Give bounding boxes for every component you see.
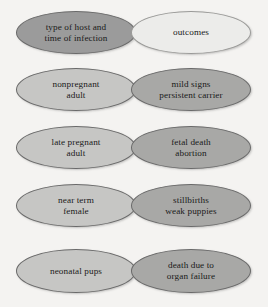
node-late-pregnant-adult: late pregnant adult <box>16 126 136 169</box>
node-outcomes-header: outcomes <box>131 11 251 54</box>
node-nonpregnant-adult: nonpregnant adult <box>16 68 136 111</box>
node-label: outcomes <box>164 27 218 38</box>
node-death-due-to-organ-failure: death due to organ failure <box>131 249 251 293</box>
node-neonatal-pups: neonatal pups <box>16 249 136 293</box>
diagram-canvas: type of host and time of infectionoutcom… <box>0 0 268 307</box>
node-label: nonpregnant adult <box>43 79 108 101</box>
node-mild-signs-persistent-carrier: mild signs persistent carrier <box>131 68 251 111</box>
node-fetal-death-abortion: fetal death abortion <box>131 126 251 169</box>
node-label: stillbirths weak puppies <box>156 195 225 217</box>
node-label: mild signs persistent carrier <box>150 79 231 101</box>
node-label: type of host and time of infection <box>36 22 117 44</box>
node-stillbirths-weak-puppies: stillbirths weak puppies <box>131 184 251 227</box>
node-label: fetal death abortion <box>162 137 220 159</box>
node-host-header: type of host and time of infection <box>16 11 136 54</box>
node-label: neonatal pups <box>41 266 111 277</box>
node-label: death due to organ failure <box>158 260 224 282</box>
node-label: late pregnant adult <box>42 137 109 159</box>
node-near-term-female: near term female <box>16 184 136 227</box>
node-label: near term female <box>49 195 103 217</box>
